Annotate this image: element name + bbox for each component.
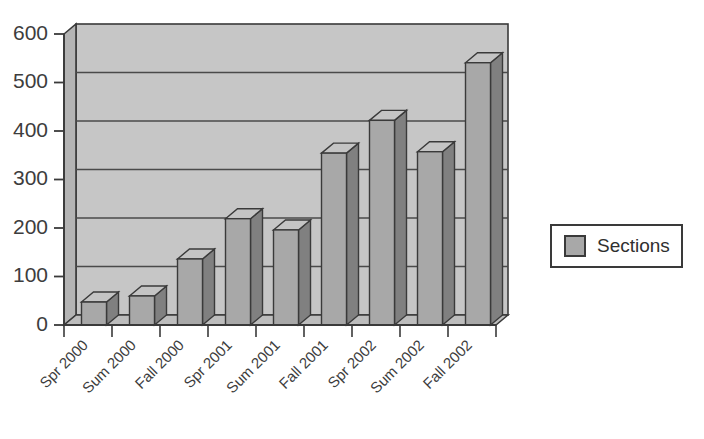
bar-side-face xyxy=(347,143,359,325)
bar-front-face xyxy=(226,219,251,325)
plot-left-wall xyxy=(64,24,76,325)
bar-chart-figure: 600 500 400 300 200 100 0 Spr 2000Sum 20… xyxy=(0,0,704,439)
bar-sum-2000[interactable] xyxy=(130,286,167,325)
bar-fall-2002[interactable] xyxy=(466,53,503,325)
bar-spr-2001[interactable] xyxy=(226,209,263,325)
bar-side-face xyxy=(491,53,503,325)
bar-sum-2002[interactable] xyxy=(418,142,455,325)
y-tick-label-0: 0 xyxy=(36,312,48,335)
bar-front-face xyxy=(418,152,443,325)
y-tick-label-100: 100 xyxy=(13,263,48,286)
chart-legend[interactable]: Sections xyxy=(551,225,682,267)
bar-spr-2002[interactable] xyxy=(370,110,407,325)
legend-label-sections: Sections xyxy=(597,235,670,256)
y-tick-label-200: 200 xyxy=(13,215,48,238)
bar-side-face xyxy=(299,220,311,325)
bar-front-face xyxy=(130,296,155,325)
bar-side-face xyxy=(203,249,215,325)
bar-fall-2001[interactable] xyxy=(322,143,359,325)
chart-canvas: 600 500 400 300 200 100 0 Spr 2000Sum 20… xyxy=(0,0,704,439)
bar-front-face xyxy=(274,230,299,325)
y-tick-label-500: 500 xyxy=(13,69,48,92)
bar-sum-2001[interactable] xyxy=(274,220,311,325)
bar-front-face xyxy=(466,63,491,325)
bar-spr-2000[interactable] xyxy=(82,292,119,325)
y-tick-label-400: 400 xyxy=(13,118,48,141)
bar-side-face xyxy=(251,209,263,325)
bar-front-face xyxy=(82,302,107,325)
bar-fall-2000[interactable] xyxy=(178,249,215,325)
bar-front-face xyxy=(178,259,203,325)
bar-front-face xyxy=(322,153,347,325)
y-tick-label-600: 600 xyxy=(13,21,48,44)
bar-side-face xyxy=(443,142,455,325)
bar-front-face xyxy=(370,120,395,325)
y-tick-label-300: 300 xyxy=(13,166,48,189)
bar-side-face xyxy=(395,110,407,325)
legend-swatch-sections xyxy=(565,236,585,256)
